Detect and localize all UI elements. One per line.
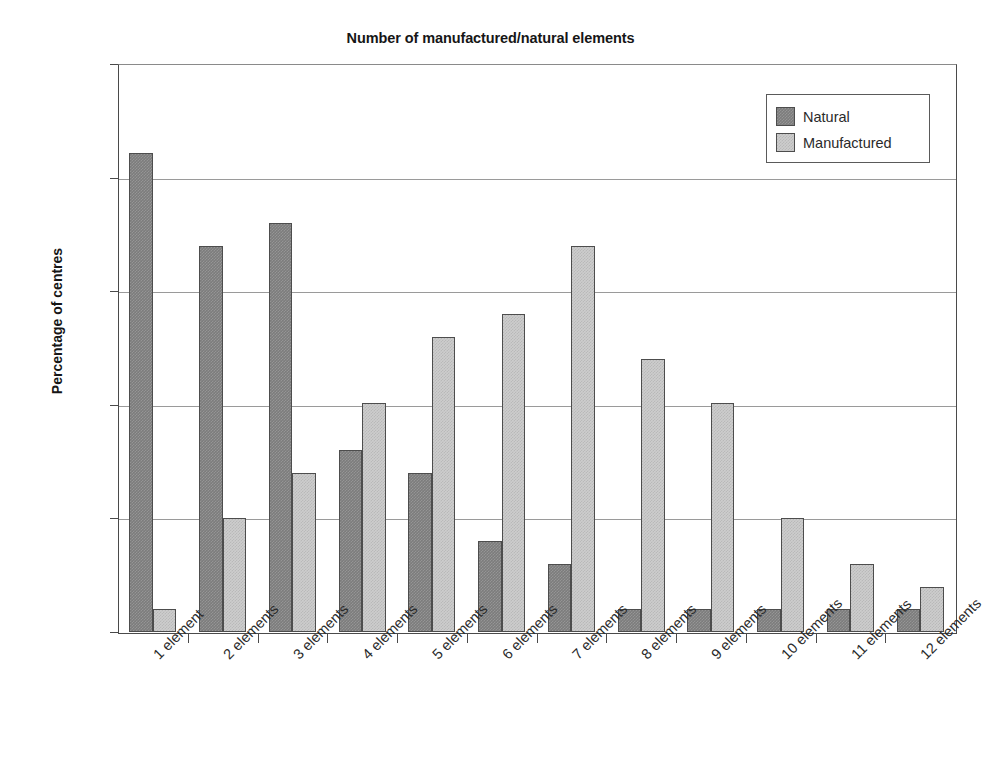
y-axis-title: Percentage of centres [49,191,65,451]
bar-group [397,64,467,632]
legend-item-natural[interactable]: Natural [776,104,850,129]
bar-manufactured[interactable] [641,359,665,632]
bar-manufactured[interactable] [781,518,805,632]
bar-group [258,64,328,632]
legend-swatch-natural [776,107,795,126]
bar-group [676,64,746,632]
bar-group [537,64,607,632]
bar-manufactured[interactable] [502,314,526,632]
chart-legend: NaturalManufactured [766,94,930,163]
chart-title: Number of manufactured/natural elements [0,30,981,46]
legend-item-manufactured[interactable]: Manufactured [776,130,892,155]
bar-manufactured[interactable] [223,518,247,632]
bar-manufactured[interactable] [362,403,386,632]
bar-manufactured[interactable] [850,564,874,632]
bar-natural[interactable] [129,153,153,632]
bar-manufactured[interactable] [711,403,735,632]
bar-group [606,64,676,632]
bar-manufactured[interactable] [292,473,316,632]
bar-natural[interactable] [269,223,293,632]
bar-natural[interactable] [548,564,572,632]
bar-manufactured[interactable] [920,587,944,632]
bar-manufactured[interactable] [571,246,595,632]
legend-label: Manufactured [803,135,892,151]
bar-manufactured[interactable] [432,337,456,632]
bar-group [467,64,537,632]
bar-natural[interactable] [199,246,223,632]
bar-group [188,64,258,632]
bar-group [118,64,188,632]
legend-swatch-manufactured [776,133,795,152]
legend-label: Natural [803,109,850,125]
bar-group [327,64,397,632]
